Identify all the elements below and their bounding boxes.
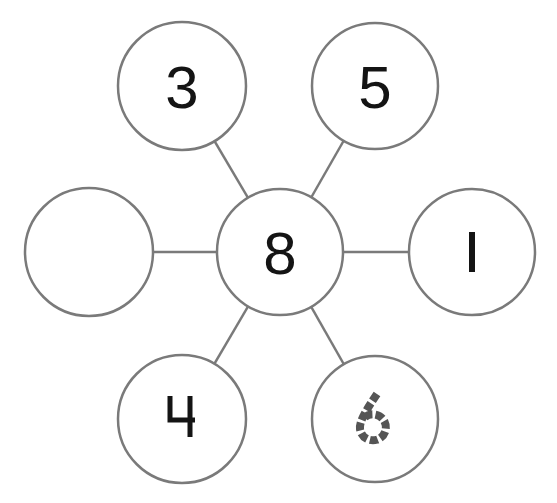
number-label-right	[469, 232, 475, 272]
number-label-top-left: 3	[165, 54, 198, 121]
number-bond-diagram: 835	[0, 0, 557, 503]
number-label-center: 8	[263, 220, 296, 287]
svg-text:3: 3	[165, 54, 198, 121]
number-label-top-right: 5	[358, 54, 391, 121]
number-circle-bottom-right	[312, 356, 438, 482]
svg-text:8: 8	[263, 220, 296, 287]
svg-text:5: 5	[358, 54, 391, 121]
empty-answer-circle[interactable]	[25, 188, 153, 316]
